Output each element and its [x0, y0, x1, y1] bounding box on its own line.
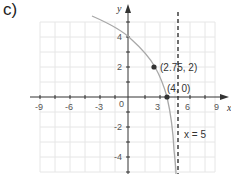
- point-marker: [164, 94, 169, 99]
- point-marker: [151, 64, 156, 69]
- asymptote-label: x = 5: [184, 129, 206, 140]
- y-axis-label: y: [116, 3, 122, 14]
- y-tick-label: -2: [114, 122, 122, 132]
- x-axis-arrow-icon: [220, 94, 229, 100]
- y-tick-label: -4: [114, 152, 122, 162]
- x-tick-label: 0: [119, 99, 124, 109]
- coordinate-graph: y x -9 -6 -3 0 3 6 9 4 2 -2 -4 x = 5 (2.…: [0, 0, 231, 177]
- function-curve: [92, 16, 176, 174]
- x-tick-label: -6: [65, 102, 73, 112]
- x-axis: [30, 95, 224, 99]
- point-label: (4, 0): [167, 83, 190, 94]
- x-axis-label: x: [226, 102, 231, 113]
- point-label: (2.75, 2): [160, 62, 197, 73]
- x-tick-label: -3: [95, 102, 103, 112]
- x-tick-label: 9: [214, 102, 219, 112]
- y-tick-label: 2: [117, 62, 122, 72]
- x-tick-label: 3: [155, 102, 160, 112]
- y-axis-arrow-icon: [125, 4, 131, 13]
- x-tick-label: -9: [35, 102, 43, 112]
- x-tick-label: 6: [185, 102, 190, 112]
- y-tick-label: 4: [117, 32, 122, 42]
